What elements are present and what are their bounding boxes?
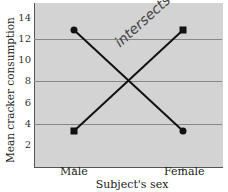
x-axis-title: Subject's sex — [62, 178, 202, 191]
square-marker-male — [71, 128, 78, 135]
x-tick-female: Female — [164, 165, 205, 178]
x-tick-male: Male — [60, 165, 88, 178]
circle-marker-male — [71, 27, 78, 34]
chart-lines — [0, 0, 228, 192]
y-axis-title: Mean cracker consumption — [4, 23, 16, 163]
circle-marker-female — [180, 128, 187, 135]
square-marker-female — [180, 27, 187, 34]
